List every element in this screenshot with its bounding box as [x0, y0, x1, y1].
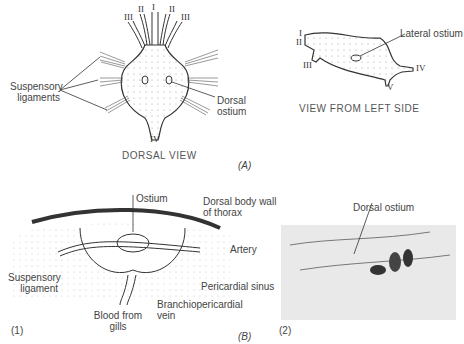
label-dorsal-ostium-a: Dorsalostium [217, 95, 246, 117]
artery-label-iv: IV [150, 134, 160, 144]
diagram-art [0, 0, 464, 344]
artery-label-iii-left: III [124, 12, 133, 22]
label-branchiopericardial-vein: Branchiopericardialvein [157, 299, 243, 321]
caption-side-view: VIEW FROM LEFT SIDE [299, 103, 419, 114]
label-pericardial-sinus: Pericardial sinus [201, 281, 274, 292]
side-artery-iv: IV [416, 63, 426, 73]
side-view-heart [305, 33, 413, 86]
fig-number-2: (2) [279, 325, 291, 336]
panel-label-a: (A) [238, 160, 251, 171]
caption-dorsal-view: DORSAL VIEW [122, 150, 197, 161]
artery-label-ii-left: II [138, 4, 144, 14]
label-dorsal-ostium-b: Dorsal ostium [353, 202, 414, 213]
photo-sketch [281, 203, 456, 320]
label-blood-from-gills: Blood fromgills [93, 310, 143, 332]
label-ostium: Ostium [136, 193, 168, 204]
panel-label-b: (B) [238, 331, 251, 342]
side-artery-ii: II [296, 37, 302, 47]
label-dorsal-body-wall: Dorsal body wallof thorax [203, 196, 276, 218]
artery-label-ii-right: II [169, 4, 175, 14]
side-artery-v: V [387, 82, 394, 92]
dorsal-view-heart [60, 12, 218, 140]
label-lateral-ostium: Lateral ostium [400, 28, 463, 39]
label-artery: Artery [230, 244, 257, 255]
label-suspensory-ligament: Suspensoryligament [8, 272, 58, 294]
artery-label-iii-right: III [181, 12, 190, 22]
artery-label-i: I [152, 2, 155, 12]
side-artery-iii: III [303, 60, 312, 70]
fig-number-1: (1) [11, 325, 23, 336]
label-suspensory-ligaments: Suspensoryligaments [10, 81, 60, 103]
